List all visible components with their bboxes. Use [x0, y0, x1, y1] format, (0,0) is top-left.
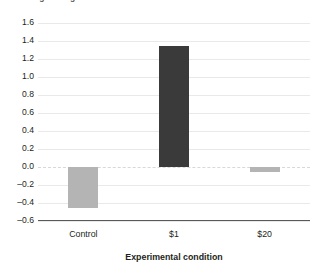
- y-tick-label: 0.6: [0, 108, 34, 117]
- y-axis-tick-labels: 1.61.41.21.00.80.60.40.20.0–0.2–0.4–0.6: [0, 23, 34, 221]
- y-tick-label: 1.0: [0, 72, 34, 81]
- y-tick-label: –0.6: [0, 216, 34, 225]
- y-tick-label: 1.2: [0, 54, 34, 63]
- y-tick-label: 0.0: [0, 162, 34, 171]
- gridline: [38, 41, 310, 43]
- y-tick-label: 0.8: [0, 90, 34, 99]
- y-tick-label: –0.2: [0, 180, 34, 189]
- bar: [68, 167, 98, 208]
- y-tick-label: –0.4: [0, 198, 34, 207]
- y-tick-label: 0.4: [0, 126, 34, 135]
- y-tick-label: 0.2: [0, 144, 34, 153]
- x-tick-label: Control: [38, 228, 129, 240]
- bar: [250, 167, 280, 172]
- gridline: [38, 221, 310, 223]
- x-axis-title: Experimental condition: [38, 252, 310, 262]
- gridline: [38, 23, 310, 25]
- y-tick-label: 1.4: [0, 36, 34, 45]
- bar-chart: Average rating 1.61.41.21.00.80.60.40.20…: [0, 0, 315, 273]
- y-tick-label: 1.6: [0, 18, 34, 27]
- x-tick-label: $20: [219, 228, 310, 240]
- y-axis-title-clipped: Average rating: [16, 0, 196, 2]
- x-tick-label: $1: [129, 228, 220, 240]
- x-axis-line: [38, 220, 310, 221]
- x-axis-tick-labels: Control$1$20: [38, 228, 310, 242]
- plot-area: [38, 23, 310, 221]
- y-axis-title-text: Average rating: [16, 0, 196, 2]
- bar: [159, 46, 189, 168]
